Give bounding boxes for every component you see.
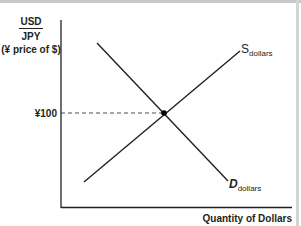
supply-label: Sdollars bbox=[241, 42, 273, 58]
demand-label: Ddollars bbox=[229, 177, 261, 193]
y-tick-label: ¥100 bbox=[35, 108, 58, 119]
y-axis-label-sub: (¥ price of $) bbox=[1, 44, 60, 55]
supply-curve bbox=[84, 51, 240, 182]
x-axis-label: Quantity of Dollars bbox=[203, 213, 293, 224]
forex-supply-demand-chart: USD JPY (¥ price of $) ¥100 Sdollars Ddo… bbox=[0, 0, 301, 226]
y-axis-label-numerator: USD bbox=[20, 16, 41, 27]
equilibrium-point bbox=[161, 110, 167, 116]
y-axis-label-denominator: JPY bbox=[22, 31, 41, 42]
